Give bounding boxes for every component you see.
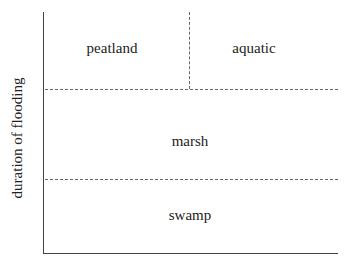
region-label-marsh: marsh bbox=[172, 133, 209, 150]
y-axis-label: duration of flooding bbox=[9, 78, 26, 199]
y-axis-line bbox=[43, 12, 44, 254]
divider-lower bbox=[45, 179, 338, 180]
region-label-swamp: swamp bbox=[169, 207, 212, 224]
x-axis-line bbox=[43, 253, 338, 254]
region-label-peatland: peatland bbox=[87, 40, 138, 57]
divider-vertical bbox=[189, 12, 190, 89]
region-label-aquatic: aquatic bbox=[232, 40, 275, 57]
divider-upper bbox=[45, 89, 338, 90]
